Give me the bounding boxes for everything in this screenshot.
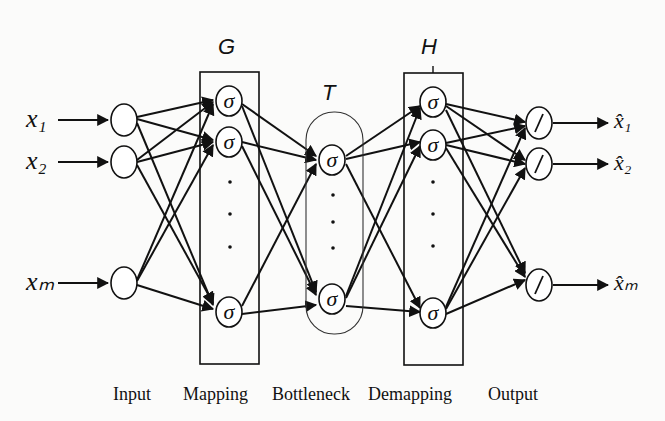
svg-text:σ: σ [224,129,236,154]
group-label-H: H [421,34,437,60]
svg-text:σ: σ [428,132,440,157]
svg-text:σ: σ [327,147,339,172]
layer-label-input: Input [113,384,151,405]
group-label-G: G [218,34,235,60]
input-label-xm: xₘ [26,266,54,297]
svg-text:σ: σ [224,88,236,113]
network-diagram: σσσ σσ σσσ G T H x₁ x₂ xₘ x̂₁ x̂₂ x̂ₘ In… [0,0,665,421]
layer-label-output: Output [488,384,538,405]
layer-label-demapping: Demapping [368,384,452,405]
svg-text:σ: σ [327,286,339,311]
output-label-x1-hat: x̂₁ [614,108,631,134]
output-label-x2-hat: x̂₂ [614,150,631,176]
layer-label-mapping: Mapping [183,384,248,405]
layer-label-bottleneck: Bottleneck [272,384,350,405]
svg-text:σ: σ [428,89,440,114]
svg-text:σ: σ [428,300,440,325]
input-label-x2: x₂ [26,146,47,176]
output-label-xm-hat: x̂ₘ [614,270,638,296]
network-graph: σσσ σσ σσσ [0,0,665,421]
input-label-x1: x₁ [26,104,47,134]
group-label-T: T [322,80,335,106]
svg-text:σ: σ [224,299,236,324]
